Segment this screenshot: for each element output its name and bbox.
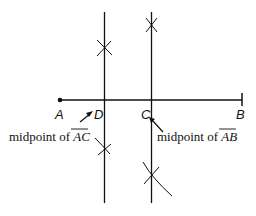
construction-diagram: A D C B midpoint of AC midpoint of AB xyxy=(0,0,256,216)
annotation-midpoint-ab: midpoint of AB xyxy=(157,129,237,144)
arc-mark-d-bottom xyxy=(95,138,111,155)
point-a xyxy=(58,98,63,103)
label-a: A xyxy=(54,107,64,122)
label-d: D xyxy=(94,107,103,122)
label-b: B xyxy=(236,107,245,122)
annotation-midpoint-ac: midpoint of AC xyxy=(9,129,90,144)
label-c: C xyxy=(141,107,151,122)
arc-mark-c-bottom xyxy=(143,162,172,196)
